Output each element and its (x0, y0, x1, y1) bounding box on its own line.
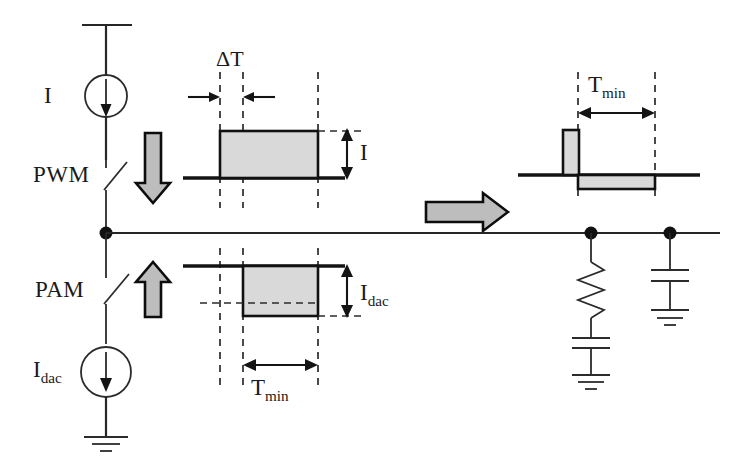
down-arrow-icon (136, 133, 170, 203)
amplitude-dimension-idac (341, 264, 353, 318)
diagram-vector-layer (0, 0, 742, 472)
label-tmin-right: Tmin (588, 73, 626, 100)
amplitude-dimension-i (318, 128, 366, 180)
label-amp-idac-sub: dac (368, 292, 389, 309)
tmin-dimension-right (578, 107, 655, 119)
label-pwm: PWM (33, 163, 89, 186)
label-delta-t: ΔT (216, 48, 244, 70)
supply-rail-icon (82, 25, 132, 75)
tmin-dimension-middle (243, 359, 318, 371)
label-current-source-top: I (44, 84, 52, 107)
label-idac-sub: dac (41, 369, 62, 386)
ground-icon-branch-1 (572, 375, 610, 389)
combined-current-pulse (518, 130, 700, 189)
resistor-icon (578, 233, 604, 338)
right-arrow-icon (426, 193, 508, 231)
current-source-icon-bottom (81, 347, 131, 437)
pwm-current-pulse (183, 131, 345, 178)
ground-icon-branch-2 (651, 310, 689, 325)
delta-t-dimension (188, 92, 275, 102)
up-arrow-icon (136, 262, 170, 317)
pam-current-pulse (183, 266, 366, 316)
label-amplitude-idac: Idac (360, 281, 389, 308)
diagram-canvas: I PWM PAM Idac ΔT I Idac Tmin Tmin (0, 0, 742, 472)
label-idac-base: I (33, 357, 41, 382)
label-amplitude-i: I (360, 141, 368, 164)
switch-icon-pam (104, 233, 129, 344)
label-tmin-right-sub: min (602, 84, 626, 101)
switch-icon-pwm (104, 160, 127, 233)
label-tmin-mid-sub: min (265, 387, 289, 404)
label-current-source-bottom: Idac (33, 358, 62, 385)
ground-icon-left (84, 437, 128, 451)
label-tmin-mid-base: T (251, 375, 265, 400)
label-pam: PAM (35, 278, 84, 301)
current-source-icon-top (85, 75, 127, 160)
label-tmin-right-base: T (588, 72, 602, 97)
capacitor-icon-branch-2 (651, 233, 689, 310)
label-tmin-middle: Tmin (251, 376, 289, 403)
capacitor-icon-branch-1 (572, 338, 610, 375)
label-amp-idac-base: I (360, 280, 368, 305)
